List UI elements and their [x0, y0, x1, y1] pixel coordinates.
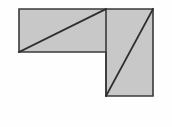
l-shape-outline — [19, 9, 153, 96]
l-shape-figure: L-shaped polygon with two internal diago… — [0, 0, 172, 127]
figure-canvas: L-shaped polygon with two internal diago… — [0, 0, 172, 127]
